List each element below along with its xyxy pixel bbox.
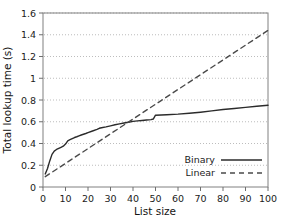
x-axis-title: List size xyxy=(134,205,176,217)
x-tick-label: 10 xyxy=(59,193,71,204)
y-tick-label: 0 xyxy=(30,182,36,193)
y-axis-tick-labels: 00.20.40.60.811.21.41.6 xyxy=(21,8,36,193)
y-tick-label: 1.6 xyxy=(21,8,36,19)
x-tick-label: 80 xyxy=(217,193,229,204)
y-tick-label: 1 xyxy=(30,73,36,84)
x-tick-label: 70 xyxy=(194,193,206,204)
y-axis-title: Total lookup time (s) xyxy=(1,47,13,155)
y-tick-label: 0.8 xyxy=(21,95,36,106)
legend-item-binary-label: Binary xyxy=(184,154,215,165)
x-tick-label: 20 xyxy=(82,193,94,204)
y-tick-label: 1.4 xyxy=(21,29,36,40)
y-tick-label: 0.4 xyxy=(21,138,36,149)
x-tick-label: 60 xyxy=(172,193,184,204)
line-chart: 0102030405060708090100 00.20.40.60.811.2… xyxy=(0,0,281,220)
y-tick-label: 0.2 xyxy=(21,160,36,171)
x-tick-label: 90 xyxy=(239,193,251,204)
x-tick-label: 100 xyxy=(259,193,277,204)
legend-item-linear-label: Linear xyxy=(185,167,215,178)
x-tick-label: 40 xyxy=(127,193,139,204)
y-tick-label: 1.2 xyxy=(21,51,36,62)
x-axis-ticks xyxy=(43,187,268,191)
y-axis-ticks xyxy=(39,13,43,187)
y-tick-label: 0.6 xyxy=(21,116,36,127)
x-tick-label: 50 xyxy=(149,193,161,204)
x-tick-label: 30 xyxy=(104,193,116,204)
x-tick-label: 0 xyxy=(40,193,46,204)
x-axis-tick-labels: 0102030405060708090100 xyxy=(40,193,277,204)
chart-figure: 0102030405060708090100 00.20.40.60.811.2… xyxy=(0,0,281,220)
